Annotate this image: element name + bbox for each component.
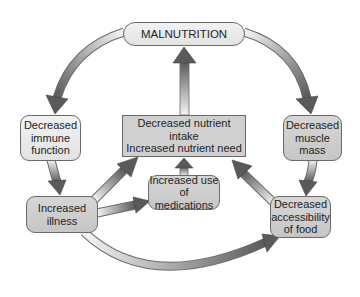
node-center-label: Decreased nutrient intake Increased nutr… — [123, 117, 245, 155]
node-medications-label: Increased use of medications — [149, 174, 219, 212]
node-illness-label: Increased illness — [38, 202, 86, 227]
arrow-access-to-center — [232, 160, 274, 203]
node-increased-use-of-medications: Increased use of medications — [148, 175, 220, 210]
node-nutrient-intake-need: Decreased nutrient intake Increased nutr… — [122, 115, 246, 157]
node-malnutrition: MALNUTRITION — [123, 22, 245, 46]
node-malnutrition-label: MALNUTRITION — [141, 28, 227, 41]
node-decreased-immune-function: Decreased immune function — [20, 115, 81, 161]
node-decreased-accessibility-of-food: Decreased accessibility of food — [270, 196, 331, 238]
node-muscle-label: Decreased muscle mass — [286, 119, 339, 157]
node-access-label: Decreased accessibility of food — [271, 198, 330, 236]
node-decreased-muscle-mass: Decreased muscle mass — [283, 115, 342, 161]
arrow-muscle-to-access — [299, 160, 317, 196]
arrow-illness-to-access — [84, 232, 280, 266]
arrow-illness-to-medications — [97, 197, 150, 213]
arrow-center-to-malnutrition — [173, 47, 196, 115]
arrow-illness-to-center — [94, 157, 138, 200]
arrow-immune-to-illness — [48, 160, 66, 195]
arrow-malnutrition-to-immune — [46, 32, 124, 114]
arrow-malnutrition-to-muscle — [244, 32, 318, 114]
node-immune-label: Decreased immune function — [24, 119, 77, 157]
node-increased-illness: Increased illness — [26, 196, 98, 233]
